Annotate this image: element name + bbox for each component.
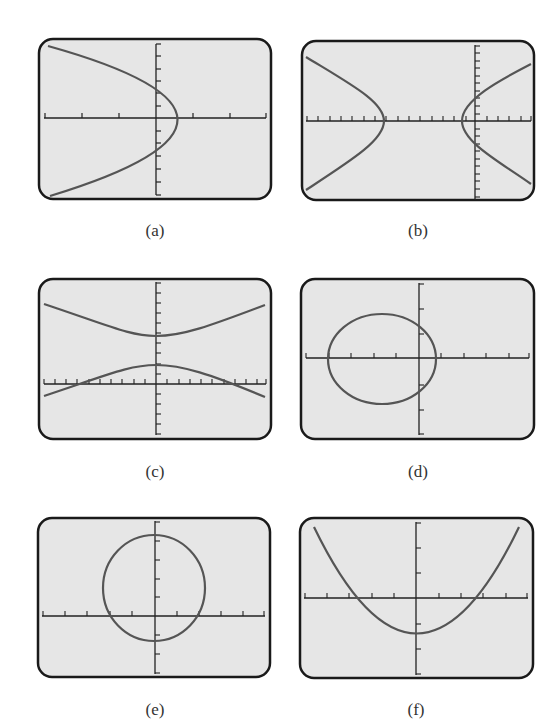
panel-label-d: (d) (388, 462, 448, 482)
panel-label-c: (c) (125, 462, 185, 482)
panel-label-b: (b) (388, 221, 448, 241)
panel-label-e: (e) (125, 700, 185, 720)
panel-label-a: (a) (125, 221, 185, 241)
graph-screen-a (0, 0, 559, 722)
panel-label-f: (f) (386, 700, 446, 720)
